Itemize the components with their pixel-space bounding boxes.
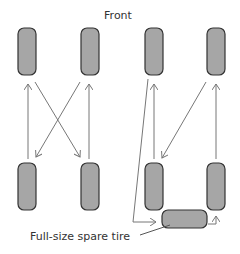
arrow-spare-to-rear-right (208, 216, 216, 224)
tire-rear-right (81, 163, 99, 210)
front-label: Front (104, 9, 133, 22)
spare-label-leader (140, 225, 170, 235)
tire-front-right (207, 28, 225, 75)
tire-rear-left (145, 163, 163, 210)
spare-tire-label: Full-size spare tire (30, 230, 130, 243)
tire-front-left (18, 28, 36, 75)
right-diagram (133, 28, 225, 228)
tire-rotation-diagram: Front Full-size spare tire (0, 0, 240, 254)
arrow-front-right-to-rear-left (162, 82, 206, 158)
tire-rear-left (18, 163, 36, 210)
left-diagram (18, 28, 99, 210)
tire-front-left (145, 28, 163, 75)
tire-rear-right (207, 163, 225, 210)
tire-front-right (81, 28, 99, 75)
